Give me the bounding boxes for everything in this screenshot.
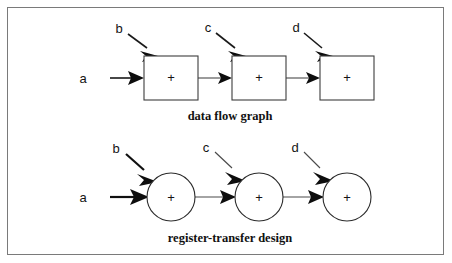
- rtd-label-d: d: [291, 140, 298, 155]
- rtd-input-c-line: [215, 152, 232, 168]
- rtd-label-b: b: [112, 141, 119, 156]
- dfg-node-2[interactable]: +: [232, 56, 286, 100]
- diagram-register-transfer-design: + + + a b c d register-transfer design: [79, 140, 371, 245]
- diagram-canvas: + + + a b c d data flow graph: [0, 0, 452, 263]
- dfg-input-d-line: [304, 33, 322, 48]
- rtd-node-1[interactable]: +: [147, 173, 195, 221]
- dfg-label-c: c: [205, 20, 212, 35]
- rtd-input-d-line: [304, 152, 320, 168]
- rtd-caption: register-transfer design: [168, 231, 292, 245]
- figure-root: + + + a b c d data flow graph: [0, 0, 452, 263]
- dfg-node-3-label: +: [343, 70, 351, 85]
- rtd-input-a: [110, 189, 149, 205]
- dfg-label-d: d: [292, 20, 299, 35]
- dfg-node-1[interactable]: +: [144, 56, 198, 100]
- rtd-node-1-label: +: [167, 190, 175, 205]
- dfg-input-a: [110, 71, 144, 85]
- rtd-label-a: a: [79, 190, 87, 205]
- rtd-input-b-line: [126, 154, 144, 170]
- rtd-node-2[interactable]: +: [235, 173, 283, 221]
- dfg-label-b: b: [115, 21, 122, 36]
- dfg-input-b-line: [128, 34, 147, 48]
- dfg-label-a: a: [79, 71, 87, 86]
- dfg-node-1-label: +: [167, 70, 175, 85]
- rtd-node-2-label: +: [255, 190, 263, 205]
- dfg-input-c-line: [216, 33, 235, 48]
- rtd-node-3-label: +: [343, 190, 351, 205]
- dfg-node-3[interactable]: +: [320, 56, 374, 100]
- rtd-node-3[interactable]: +: [323, 173, 371, 221]
- dfg-node-2-label: +: [255, 70, 263, 85]
- diagram-data-flow-graph: + + + a b c d data flow graph: [79, 20, 374, 123]
- dfg-caption: data flow graph: [188, 109, 273, 123]
- rtd-label-c: c: [203, 140, 210, 155]
